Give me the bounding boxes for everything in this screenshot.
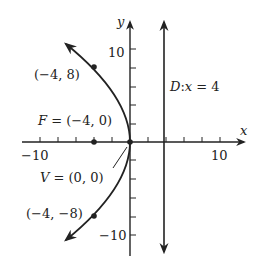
point-top <box>91 64 97 70</box>
focus-point <box>91 139 97 145</box>
vertex-leader <box>113 147 127 168</box>
point-bottom <box>91 213 97 219</box>
vertex-label: V = (0, 0) <box>40 170 104 185</box>
y-tick-label-10: 10 <box>108 45 125 60</box>
x-axis-label: x <box>240 123 248 138</box>
y-axis-label: y <box>116 14 125 29</box>
x-tick-label-neg10: −10 <box>21 148 48 163</box>
point-bottom-label: (−4, −8) <box>26 206 83 221</box>
vertex-point <box>127 139 133 145</box>
directrix-label: D:x = 4 <box>169 79 220 94</box>
focus-label: F = (−4, 0) <box>37 113 112 128</box>
graph-canvas: y x 10 −10 −10 10 (−4, 8) (−4, −8) F = (… <box>0 0 267 268</box>
parabola-graph: y x 10 −10 −10 10 (−4, 8) (−4, −8) F = (… <box>0 0 267 268</box>
y-tick-label-neg10: −10 <box>99 228 126 243</box>
x-tick-label-10: 10 <box>211 148 228 163</box>
point-top-label: (−4, 8) <box>34 67 80 82</box>
